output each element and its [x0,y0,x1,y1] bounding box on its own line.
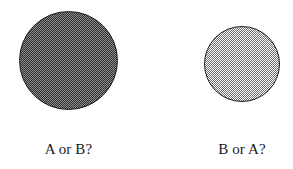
circle-small-light[interactable] [204,26,280,102]
caption-right: B or A? [204,140,280,158]
caption-left: A or B? [19,140,118,158]
figure-canvas: A or B? B or A? [0,0,293,169]
circle-large-dark[interactable] [19,11,118,110]
